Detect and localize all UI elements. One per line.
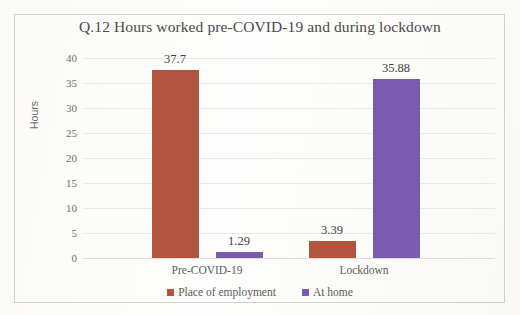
bar-value-label: 1.29 [204, 234, 274, 249]
chart-title: Q.12 Hours worked pre-COVID-19 and durin… [30, 18, 490, 36]
chart-screenshot: Q.12 Hours worked pre-COVID-19 and durin… [0, 0, 520, 315]
gridline-10 [83, 208, 495, 209]
gridline-0 [83, 258, 495, 259]
bar-value-label: 3.39 [297, 223, 367, 238]
bar-lockdown-at-home[interactable] [373, 79, 420, 258]
gridline-30 [83, 108, 495, 109]
gridline-20 [83, 158, 495, 159]
legend-swatch-icon [302, 289, 309, 296]
legend-label: Place of employment [178, 286, 276, 298]
bar-lockdown-place-of-employment[interactable] [309, 241, 356, 258]
y-tick-label-5: 5 [47, 227, 77, 239]
y-axis-label: Hours [28, 101, 40, 129]
x-category-label-lockdown: Lockdown [284, 264, 444, 276]
gridline-25 [83, 133, 495, 134]
y-tick-label-0: 0 [47, 252, 77, 264]
y-tick-label-25: 25 [47, 127, 77, 139]
gridline-5 [83, 233, 495, 234]
bar-value-label: 37.7 [140, 52, 210, 67]
legend-item-at-home[interactable]: At home [302, 286, 353, 298]
plot-area: 37.71.293.3935.88 [83, 58, 495, 258]
y-tick-label-20: 20 [47, 152, 77, 164]
legend-item-place-of-employment[interactable]: Place of employment [167, 286, 276, 298]
legend-swatch-icon [167, 289, 174, 296]
y-tick-label-40: 40 [47, 52, 77, 64]
bar-value-label: 35.88 [361, 61, 431, 76]
gridline-15 [83, 183, 495, 184]
y-tick-label-15: 15 [47, 177, 77, 189]
y-tick-label-10: 10 [47, 202, 77, 214]
bar-pre-covid-19-at-home[interactable] [216, 252, 263, 258]
chart-legend: Place of employmentAt home [0, 286, 520, 298]
x-category-label-pre-covid-19: Pre-COVID-19 [127, 264, 287, 276]
bar-pre-covid-19-place-of-employment[interactable] [152, 70, 199, 259]
gridline-35 [83, 83, 495, 84]
y-axis-tick-labels: 4035302520151050 [43, 58, 77, 258]
y-tick-label-35: 35 [47, 77, 77, 89]
legend-label: At home [313, 286, 353, 298]
y-tick-label-30: 30 [47, 102, 77, 114]
